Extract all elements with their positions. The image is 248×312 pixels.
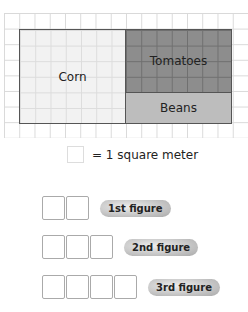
square	[66, 196, 89, 220]
square	[66, 275, 89, 299]
beans-label: Beans	[160, 101, 197, 115]
square	[42, 235, 65, 259]
figure-label: 1st figure	[100, 200, 171, 217]
figure-label: 3rd figure	[148, 279, 220, 296]
square	[114, 275, 137, 299]
square	[42, 275, 65, 299]
unit-square-icon	[67, 146, 84, 163]
square	[42, 196, 65, 220]
figure-row-3: 3rd figure	[42, 275, 220, 299]
corn-label: Corn	[58, 70, 86, 84]
figure-row-1: 1st figure	[42, 196, 171, 220]
tomatoes-label: Tomatoes	[150, 54, 207, 68]
square	[66, 235, 89, 259]
tomatoes-region: Tomatoes	[125, 29, 232, 93]
square	[90, 235, 113, 259]
figure-row-2: 2nd figure	[42, 235, 198, 259]
beans-region: Beans	[125, 92, 232, 124]
legend-text: = 1 square meter	[92, 148, 198, 162]
figure-label: 2nd figure	[124, 239, 198, 256]
legend: = 1 square meter	[67, 146, 198, 163]
corn-region: Corn	[19, 29, 126, 124]
square	[90, 275, 113, 299]
